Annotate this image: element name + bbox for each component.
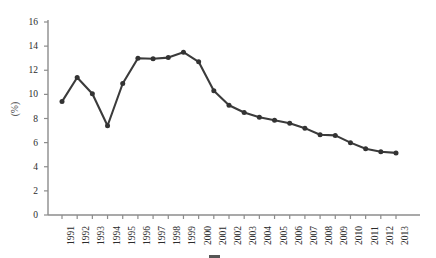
x-tick-label: 1998 — [172, 226, 182, 245]
x-tick-label: 2002 — [233, 226, 243, 245]
x-tick-label: 2000 — [203, 226, 213, 245]
x-tick-label: 2007 — [309, 226, 319, 245]
data-point-marker — [211, 88, 216, 93]
y-tick-label: 16 — [18, 17, 38, 27]
data-point-marker — [272, 118, 277, 123]
y-tick-label: 4 — [18, 162, 38, 172]
y-tick-label: 6 — [18, 138, 38, 148]
series-line — [62, 52, 396, 153]
data-point-marker — [227, 103, 232, 108]
x-tick-label: 2013 — [400, 226, 410, 245]
data-point-marker — [333, 133, 338, 138]
data-point-marker — [394, 150, 399, 155]
x-tick-label: 1999 — [187, 226, 197, 245]
data-point-marker — [166, 55, 171, 60]
data-point-marker — [75, 75, 80, 80]
x-tick-label: 2004 — [263, 226, 273, 245]
data-point-marker — [196, 59, 201, 64]
data-point-marker — [287, 121, 292, 126]
x-tick-label: 1992 — [81, 226, 91, 245]
x-tick-label: 1997 — [157, 226, 167, 245]
x-tick-label: 2012 — [385, 226, 395, 245]
data-point-marker — [302, 126, 307, 131]
x-tick-label: 1994 — [112, 226, 122, 245]
data-point-marker — [181, 50, 186, 55]
data-point-marker — [135, 56, 140, 61]
figure-caption — [0, 250, 436, 258]
x-tick-label: 2009 — [339, 226, 349, 245]
x-tick-label: 1995 — [127, 226, 137, 245]
line-chart-svg — [0, 0, 436, 258]
y-tick-label: 0 — [18, 210, 38, 220]
x-tick-label: 2001 — [218, 226, 228, 245]
x-tick-label: 1993 — [96, 226, 106, 245]
data-point-marker — [120, 81, 125, 86]
data-point-marker — [60, 99, 65, 104]
x-tick-label: 1996 — [142, 226, 152, 245]
data-point-marker — [105, 123, 110, 128]
x-tick-label: 2008 — [324, 226, 334, 245]
y-tick-label: 2 — [18, 186, 38, 196]
x-tick-label: 1991 — [66, 226, 76, 245]
chart-plot-area — [0, 0, 436, 258]
x-tick-label: 2011 — [370, 226, 380, 245]
y-tick-label: 10 — [18, 89, 38, 99]
y-tick-label: 14 — [18, 41, 38, 51]
x-tick-label: 2005 — [279, 226, 289, 245]
data-point-marker — [242, 110, 247, 115]
x-tick-label: 2003 — [248, 226, 258, 245]
x-tick-label: 2006 — [294, 226, 304, 245]
data-point-marker — [348, 140, 353, 145]
data-point-marker — [318, 132, 323, 137]
data-point-marker — [363, 146, 368, 151]
data-point-marker — [257, 115, 262, 120]
data-point-marker — [151, 56, 156, 61]
y-tick-label: 8 — [18, 114, 38, 124]
figure-container: (%) 0246810121416 1991199219931994199519… — [0, 0, 436, 258]
data-point-marker — [90, 91, 95, 96]
y-tick-label: 12 — [18, 65, 38, 75]
data-point-marker — [378, 149, 383, 154]
x-tick-label: 2010 — [354, 226, 364, 245]
